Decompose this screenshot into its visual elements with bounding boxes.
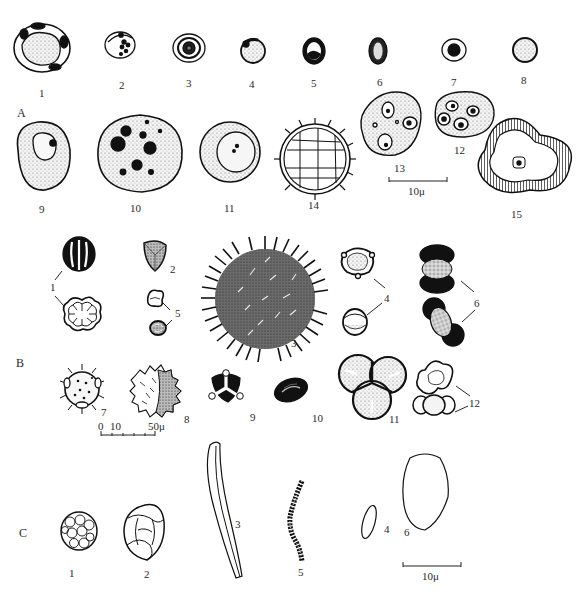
section-a-figures	[14, 23, 571, 200]
scale-bar-b-tick-50: 50μ	[148, 421, 165, 432]
figure-number-a5: 5	[311, 78, 317, 89]
figure-b6-top	[420, 245, 474, 293]
figure-number-c4: 4	[384, 524, 390, 535]
figure-number-c3: 3	[235, 519, 241, 530]
figure-a2	[105, 32, 135, 58]
scale-bar-b-tick-10: 10	[110, 421, 121, 432]
figure-a10	[98, 115, 182, 192]
figure-a12	[435, 92, 494, 137]
figure-number-a7: 7	[451, 77, 457, 88]
figure-number-b6: 6	[474, 298, 480, 309]
figure-number-a8: 8	[521, 75, 527, 86]
figure-a4	[241, 39, 265, 63]
figure-a9	[17, 122, 70, 190]
figure-c2	[124, 505, 164, 560]
section-b-figures	[55, 236, 475, 419]
figure-number-c5: 5	[298, 567, 304, 578]
figure-number-c1: 1	[69, 568, 75, 579]
scale-bar-c	[403, 562, 461, 567]
figure-a13	[361, 92, 421, 155]
figure-b1-bottom	[55, 296, 101, 330]
figure-a3	[173, 34, 205, 62]
illustration-plate	[0, 0, 581, 597]
figure-number-a15: 15	[511, 209, 522, 220]
scale-bar-b-tick-0: 0	[98, 421, 104, 432]
figure-number-c2: 2	[144, 569, 150, 580]
figure-number-a3: 3	[186, 78, 192, 89]
figure-a11	[200, 122, 260, 182]
figure-number-b3: 3	[291, 338, 297, 349]
figure-number-b5: 5	[175, 308, 181, 319]
figure-a8	[513, 38, 537, 62]
figure-b10	[271, 374, 310, 406]
figure-number-a6: 6	[377, 77, 383, 88]
figure-c6	[403, 454, 448, 530]
figure-b2	[144, 241, 166, 271]
figure-number-a1: 1	[39, 88, 45, 99]
scale-bar-a	[389, 177, 447, 182]
figure-c1	[61, 512, 97, 550]
section-c-figures	[61, 442, 448, 578]
figure-number-b2: 2	[170, 264, 176, 275]
figure-number-b8: 8	[184, 414, 190, 425]
section-label-a: A	[17, 107, 26, 119]
figure-number-a2: 2	[119, 80, 125, 91]
figure-b5	[148, 290, 172, 335]
figure-b8	[130, 365, 181, 417]
figure-number-b10: 10	[312, 413, 323, 424]
figure-number-a12: 12	[454, 145, 465, 156]
figure-a7	[442, 39, 466, 61]
figure-a1	[14, 23, 70, 72]
figure-b12-bottom	[413, 395, 468, 415]
figure-number-b7: 7	[101, 407, 107, 418]
figure-b9	[209, 370, 244, 402]
figure-number-c6: 6	[404, 527, 410, 538]
figure-number-a10: 10	[130, 203, 141, 214]
figure-number-b12: 12	[469, 398, 480, 409]
figure-a5	[303, 38, 325, 64]
figure-c4	[359, 504, 379, 540]
figure-number-a4: 4	[249, 79, 255, 90]
figure-number-b9: 9	[250, 412, 256, 423]
figure-a6	[369, 38, 387, 64]
figure-number-b4: 4	[384, 293, 390, 304]
figure-number-b11: 11	[389, 414, 400, 425]
figure-number-a13: 13	[394, 163, 405, 174]
figure-b11	[339, 355, 406, 419]
figure-c3	[207, 442, 242, 578]
figure-b4-top	[342, 248, 386, 288]
figure-c5	[290, 481, 302, 561]
section-label-c: C	[19, 527, 27, 539]
figure-b12-top	[417, 361, 470, 396]
figure-number-a9: 9	[39, 204, 45, 215]
scale-bar-c-label: 10μ	[422, 571, 439, 582]
figure-number-b1: 1	[50, 282, 56, 293]
scale-bar-a-label: 10μ	[408, 186, 425, 197]
figure-b7	[60, 364, 104, 414]
figure-number-a11: 11	[224, 203, 235, 214]
figure-b4-bottom	[343, 303, 382, 335]
figure-b6-bottom	[423, 298, 475, 346]
figure-a15	[478, 118, 571, 192]
figure-b3	[201, 236, 328, 362]
figure-number-a14: 14	[308, 200, 319, 211]
section-label-b: B	[16, 357, 24, 369]
figure-b1-top	[55, 237, 95, 280]
figure-a14	[274, 118, 356, 200]
